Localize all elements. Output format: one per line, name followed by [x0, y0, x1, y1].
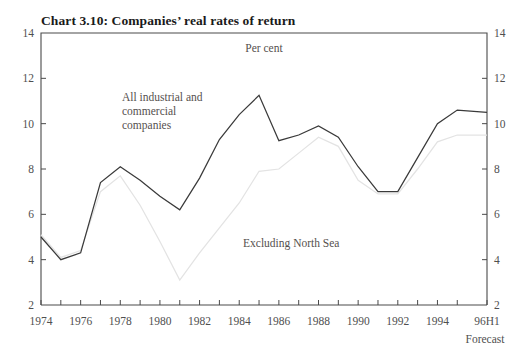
y-tick-label-left: 8	[28, 163, 34, 175]
y-tick-label-right: 8	[494, 163, 500, 175]
x-tick-label: 1994	[426, 315, 449, 327]
y-tick-label-right: 14	[494, 27, 506, 39]
x-tick-label: 1986	[267, 315, 290, 327]
x-tick-label: 1978	[109, 315, 132, 327]
y-tick-label-right: 6	[494, 208, 500, 220]
x-axis-ticks	[41, 300, 487, 305]
y-tick-label-left: 10	[23, 118, 35, 130]
excluding-north-sea-annotation: Excluding North Sea	[243, 237, 339, 250]
y-tick-label-left: 4	[28, 254, 34, 266]
x-tick-label: 1982	[188, 315, 211, 327]
chart-figure: Chart 3.10: Companies’ real rates of ret…	[0, 0, 530, 364]
chart-title: Chart 3.10: Companies’ real rates of ret…	[41, 13, 295, 29]
y-axis-right-labels: 2468101214	[494, 27, 506, 311]
y-tick-label-right: 10	[494, 118, 506, 130]
plot-frame	[41, 33, 487, 305]
all-companies-annotation: All industrial andcommercialcompanies	[122, 91, 203, 132]
y-tick-label-left: 6	[28, 208, 34, 220]
x-axis-labels: 1974197619781980198219841986198819901992…	[30, 315, 501, 327]
data-series-group	[41, 95, 487, 280]
y-tick-label-right: 4	[494, 254, 500, 266]
chart-annotations: All industrial andcommercialcompaniesExc…	[122, 91, 339, 250]
plot-border	[41, 33, 487, 305]
x-tick-label: 96H1	[474, 315, 500, 327]
series-line-excluding-north-sea	[41, 135, 487, 280]
forecast-label: Forecast	[466, 333, 506, 345]
y-tick-label-left: 2	[28, 299, 34, 311]
x-tick-label: 1976	[69, 315, 92, 327]
y-axis-left-labels: 2468101214	[23, 27, 35, 311]
x-tick-label: 1984	[228, 315, 251, 327]
x-tick-label: 1992	[386, 315, 409, 327]
y-axis-right-ticks	[482, 78, 487, 259]
x-tick-label: 1990	[347, 315, 370, 327]
y-tick-label-left: 12	[23, 72, 35, 84]
y-axis-left-ticks	[41, 78, 46, 259]
y-tick-label-right: 2	[494, 299, 500, 311]
unit-label: Per cent	[245, 42, 283, 54]
x-tick-label: 1980	[148, 315, 171, 327]
rates-of-return-line-chart: 2468101214 2468101214 197419761978198019…	[0, 0, 530, 364]
x-tick-label: 1974	[30, 315, 53, 327]
series-line-all-industrial-and-commercial-companies	[41, 95, 487, 259]
x-tick-label: 1988	[307, 315, 330, 327]
y-tick-label-right: 12	[494, 72, 506, 84]
y-tick-label-left: 14	[23, 27, 35, 39]
